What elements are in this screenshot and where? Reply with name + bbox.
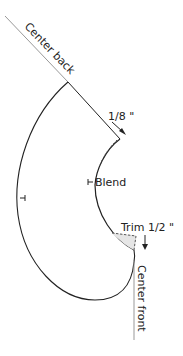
neckline-lower-curve: [134, 250, 135, 262]
facing-pattern-diagram: Center back 1/8 " Blend Trim 1/2 " Cente…: [0, 0, 183, 356]
trim-label: Trim 1/2 ": [120, 221, 174, 234]
shoulder-adjust-label: 1/8 ": [108, 110, 134, 123]
center-back-label: Center back: [22, 20, 78, 77]
blend-label: Blend: [95, 176, 126, 189]
notch-marker-inner: [88, 179, 93, 185]
trim-arrow-icon: [142, 235, 148, 250]
notch-marker-outer: [20, 195, 25, 201]
center-front-label: Center front: [135, 265, 148, 332]
